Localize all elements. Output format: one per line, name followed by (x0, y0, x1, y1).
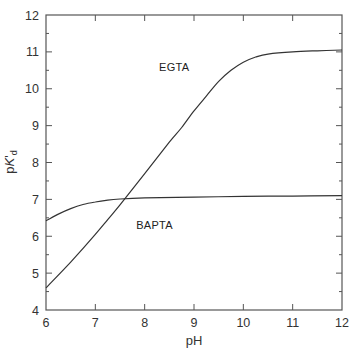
chart-canvas: 6789101112 456789101112 EGTABAPTA pH pK'… (0, 0, 354, 357)
x-tick-label: 11 (286, 316, 299, 330)
x-tick-label: 7 (92, 316, 99, 330)
plot-frame (46, 15, 342, 310)
x-tick-label: 9 (191, 316, 198, 330)
y-tick-labels: 456789101112 (25, 9, 39, 318)
y-tick-label: 7 (32, 193, 39, 207)
y-tick-label: 9 (32, 119, 39, 133)
x-tick-label: 12 (335, 316, 349, 330)
series-labels: EGTABAPTA (136, 61, 190, 232)
y-tick-label: 4 (32, 304, 39, 318)
series-label-egta: EGTA (159, 61, 190, 73)
curve-bapta (46, 196, 342, 221)
x-tick-label: 10 (236, 316, 250, 330)
y-axis-title: pK'd (2, 150, 19, 173)
y-tick-label: 11 (26, 45, 39, 59)
x-axis-title: pH (186, 333, 203, 348)
data-curves (46, 50, 342, 288)
y-tick-label: 6 (32, 230, 39, 244)
series-label-bapta: BAPTA (136, 219, 173, 231)
x-tick-label: 6 (43, 316, 50, 330)
y-tick-label: 5 (32, 267, 39, 281)
y-tick-label: 12 (25, 9, 39, 23)
y-tick-label: 8 (32, 156, 39, 170)
plot-border (46, 15, 342, 310)
curve-egta (46, 50, 342, 288)
axis-ticks (46, 15, 342, 310)
x-tick-label: 8 (141, 316, 148, 330)
y-tick-label: 10 (25, 82, 39, 96)
x-tick-labels: 6789101112 (43, 316, 349, 330)
